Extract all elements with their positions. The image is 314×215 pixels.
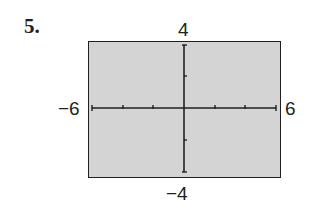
axes: [0, 0, 314, 215]
